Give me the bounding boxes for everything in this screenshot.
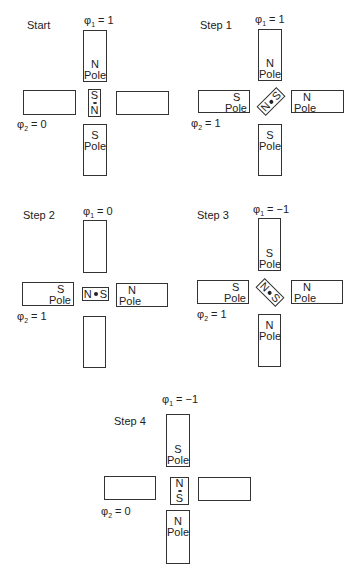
phi2-label: φ2 = 1	[17, 310, 47, 327]
rotor: NS	[82, 287, 109, 301]
top-pole	[83, 220, 107, 273]
panel-title: Step 2	[23, 209, 55, 221]
right-pole: N Pole	[291, 90, 344, 113]
bottom-pole: S Pole	[258, 124, 282, 176]
top-pole: S Pole	[258, 218, 281, 271]
right-pole	[116, 91, 169, 115]
phi2-label: φ2 = 1	[197, 308, 227, 325]
bottom-pole: N Pole	[166, 510, 190, 564]
phi1-label: φ1 = 1	[255, 13, 285, 30]
bottom-pole	[83, 316, 106, 368]
right-pole: N Pole	[116, 283, 168, 307]
top-pole: N Pole	[83, 30, 107, 82]
panel-title: Step 3	[197, 209, 229, 221]
panel-title: Step 1	[200, 19, 232, 31]
phi1-label: φ1 = −1	[162, 393, 198, 410]
top-pole: S Pole	[166, 414, 190, 467]
pole-text: Pole	[84, 69, 106, 81]
left-pole	[104, 476, 156, 500]
left-pole: S Pole	[197, 280, 249, 304]
rotor: NS	[256, 278, 285, 307]
rotor: SN	[88, 89, 101, 117]
left-pole	[23, 90, 76, 115]
right-pole	[198, 477, 251, 501]
phi2-label: φ2 = 0	[101, 505, 131, 522]
rotor: NS	[257, 87, 286, 116]
panel-title: Start	[27, 19, 50, 31]
rotor: NS	[170, 477, 189, 505]
left-pole: S Pole	[22, 282, 74, 306]
bottom-pole: N Pole	[258, 314, 281, 367]
right-pole: N Pole	[291, 280, 343, 304]
top-pole: N Pole	[258, 29, 282, 81]
panel-title: Step 4	[114, 415, 146, 427]
phi1-label: φ1 = 1	[84, 14, 114, 31]
left-pole: S Pole	[198, 90, 250, 113]
phi2-label: φ2 = 0	[17, 118, 47, 135]
phi2-label: φ2 = 1	[191, 117, 221, 134]
stepper-motor-diagram: Start φ1 = 1 N Pole SN φ2 = 0 S Pole Ste…	[0, 0, 361, 584]
bottom-pole: S Pole	[83, 124, 107, 176]
